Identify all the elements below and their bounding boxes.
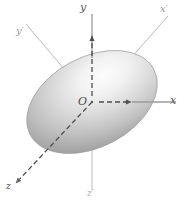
- axis-label-y-prime: y′: [16, 26, 24, 36]
- axis-label-z: z: [6, 182, 11, 191]
- axis-label-y: y: [80, 2, 86, 13]
- origin-marker: [91, 101, 93, 103]
- axis-label-z-prime: z′: [87, 189, 94, 198]
- origin-label: O: [78, 96, 87, 107]
- axis-label-x-prime: x′: [160, 4, 168, 14]
- diagram-canvas: [0, 0, 184, 204]
- axis-label-x: x: [170, 95, 176, 106]
- ellipsoid-diagram: y x z x′ y′ z′ O: [0, 0, 184, 204]
